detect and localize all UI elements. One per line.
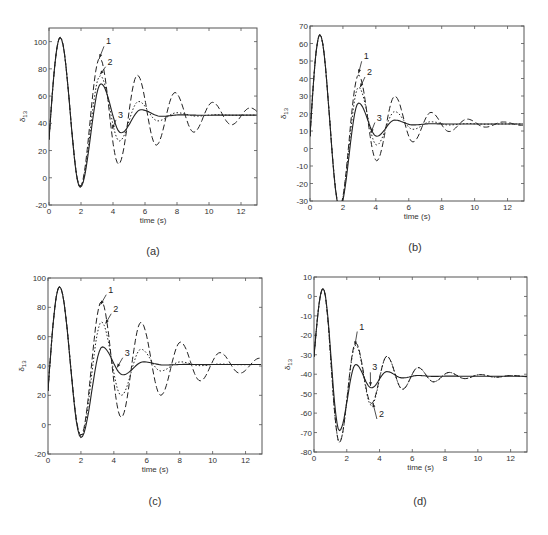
series-line-2 bbox=[314, 289, 527, 443]
x-tick-label: 4 bbox=[377, 454, 382, 463]
y-tick-label: -10 bbox=[300, 312, 312, 321]
x-tick-label: 10 bbox=[473, 454, 482, 463]
x-tick-label: 8 bbox=[443, 454, 448, 463]
caption-a: (a) bbox=[133, 245, 173, 257]
chart-d: 024681012-80-70-60-50-40-30-20-10010time… bbox=[0, 0, 548, 535]
y-tick-label: -70 bbox=[300, 429, 312, 438]
x-tick-label: 12 bbox=[506, 454, 515, 463]
y-tick-label: -80 bbox=[300, 448, 312, 457]
y-tick-label: 10 bbox=[303, 273, 312, 282]
series-line-1 bbox=[314, 289, 527, 443]
caption-b: (b) bbox=[395, 241, 435, 253]
x-tick-label: 0 bbox=[312, 454, 317, 463]
y-tick-label: -50 bbox=[300, 390, 312, 399]
caption-c: (c) bbox=[135, 495, 175, 507]
y-axis-label: δ13 bbox=[283, 358, 293, 370]
y-tick-label: -40 bbox=[300, 370, 312, 379]
arrow-icon bbox=[369, 382, 372, 386]
x-tick-label: 6 bbox=[410, 454, 415, 463]
x-tick-label: 2 bbox=[345, 454, 350, 463]
y-tick-label: -60 bbox=[300, 409, 312, 418]
curve-annotation-3: 3 bbox=[372, 362, 377, 372]
curve-annotation-1: 1 bbox=[359, 322, 364, 332]
y-tick-label: 0 bbox=[308, 292, 313, 301]
caption-d: (d) bbox=[400, 495, 440, 507]
y-tick-label: -30 bbox=[300, 351, 312, 360]
curve-annotation-2: 2 bbox=[379, 409, 384, 419]
x-axis-label: time (s) bbox=[407, 463, 434, 472]
y-tick-label: -20 bbox=[300, 331, 312, 340]
series-line-3 bbox=[314, 289, 527, 431]
plot-area-d bbox=[314, 277, 527, 452]
